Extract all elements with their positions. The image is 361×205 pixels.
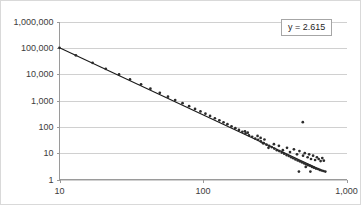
- y-tick-label: 100: [38, 122, 53, 132]
- data-point: [306, 156, 309, 159]
- data-point: [129, 78, 132, 81]
- data-point: [91, 61, 94, 64]
- x-axis-tick-labels: 101001,000: [54, 186, 357, 196]
- data-point: [140, 83, 143, 86]
- data-point: [319, 160, 322, 163]
- y-tick-label: 1,000,000: [13, 17, 53, 27]
- data-point: [246, 131, 249, 134]
- data-point: [303, 152, 306, 155]
- data-point: [310, 158, 313, 161]
- data-point: [262, 142, 265, 145]
- data-point: [289, 151, 292, 154]
- data-point: [257, 139, 260, 142]
- data-point: [273, 143, 276, 146]
- data-point: [321, 157, 324, 160]
- data-point: [273, 147, 276, 150]
- data-point: [267, 146, 270, 149]
- data-point: [301, 121, 304, 124]
- chart-container: 1101001,00010,000100,0001,000,000 101001…: [0, 0, 361, 205]
- y-tick-label: 1,000: [31, 96, 54, 106]
- data-point: [293, 148, 296, 151]
- data-point: [199, 110, 202, 113]
- data-point: [241, 130, 244, 133]
- data-point: [281, 149, 284, 152]
- data-point: [251, 135, 254, 138]
- data-point: [209, 115, 212, 118]
- y-axis-tick-labels: 1101001,00010,000100,0001,000,000: [13, 17, 53, 185]
- data-point: [298, 170, 301, 173]
- data-point: [265, 143, 268, 146]
- legend-equation-box: y = 2.615: [281, 19, 332, 36]
- y-tick-label: 10,000: [26, 69, 54, 79]
- data-point: [238, 129, 241, 132]
- y-tick-label: 1: [48, 175, 53, 185]
- data-point: [259, 140, 262, 143]
- data-point: [118, 73, 121, 76]
- data-point: [283, 152, 286, 155]
- data-point: [58, 46, 61, 49]
- data-point: [254, 137, 257, 140]
- data-point: [259, 137, 262, 140]
- data-point: [298, 150, 301, 153]
- data-point: [188, 105, 191, 108]
- data-point: [149, 87, 152, 90]
- y-tick-label: 100,000: [21, 43, 54, 53]
- data-point: [214, 117, 217, 120]
- x-tick-label: 10: [54, 186, 64, 196]
- data-point: [75, 54, 78, 57]
- data-point: [286, 146, 289, 149]
- data-point: [167, 95, 170, 98]
- x-tick-label: 1,000: [335, 186, 358, 196]
- data-point: [287, 155, 290, 158]
- data-point: [304, 166, 307, 169]
- data-point: [244, 130, 247, 133]
- data-point: [222, 121, 225, 124]
- data-point: [317, 158, 320, 161]
- data-point: [104, 67, 107, 70]
- data-point: [280, 151, 283, 154]
- data-point: [158, 92, 161, 95]
- data-point: [312, 154, 315, 157]
- data-point: [204, 112, 207, 115]
- data-point: [226, 123, 229, 126]
- data-point: [296, 153, 299, 156]
- data-point: [234, 127, 237, 130]
- data-point: [309, 170, 312, 173]
- data-point: [302, 154, 305, 157]
- data-point: [322, 159, 325, 162]
- data-point: [324, 170, 327, 173]
- data-point: [314, 159, 317, 162]
- data-point: [174, 99, 177, 102]
- data-point: [308, 153, 311, 156]
- data-point: [181, 102, 184, 105]
- data-point: [248, 134, 251, 137]
- data-point: [230, 125, 233, 128]
- x-tick-label: 100: [195, 186, 210, 196]
- data-point: [278, 150, 281, 153]
- data-point: [275, 149, 278, 152]
- data-point: [270, 146, 273, 149]
- data-point: [263, 138, 266, 141]
- data-point: [278, 144, 281, 147]
- y-tick-label: 10: [43, 148, 53, 158]
- data-point: [256, 135, 259, 138]
- data-point: [218, 119, 221, 122]
- data-point: [194, 108, 197, 111]
- legend-equation-label: y = 2.615: [288, 22, 325, 32]
